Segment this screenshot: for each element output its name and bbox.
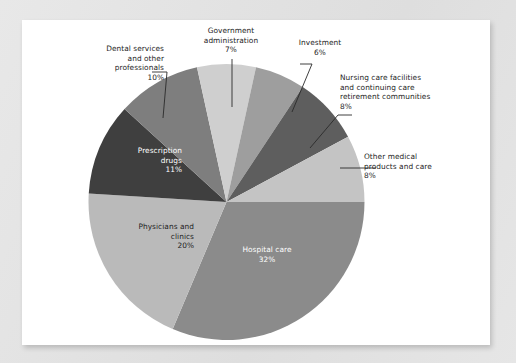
slice-label-hospital-care: Hospital care 32% bbox=[218, 245, 316, 264]
pie-slice-group bbox=[88, 64, 364, 340]
slice-label-dental-services: Dental services and other professionals … bbox=[58, 44, 164, 82]
slice-label-prescription-drugs: Prescription drugs 11% bbox=[100, 146, 182, 175]
slice-label-government-administration: Government administration 7% bbox=[183, 26, 279, 55]
slice-label-physicians-and-clinics: Physicians and clinics 20% bbox=[98, 222, 194, 251]
slice-label-nursing-care-facilities: Nursing care facilities and continuing c… bbox=[340, 73, 490, 111]
slice-label-other-medical-products: Other medical products and care 8% bbox=[364, 152, 484, 181]
slice-label-investment: Investment 6% bbox=[285, 38, 355, 57]
